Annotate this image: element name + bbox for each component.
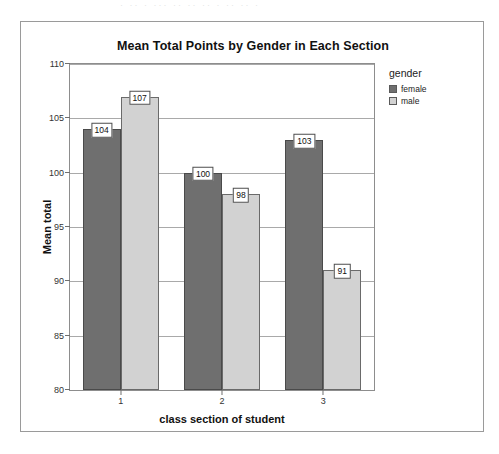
bar-male-section-1[interactable]: 107	[121, 97, 159, 390]
y-tick-mark	[65, 280, 70, 281]
legend-item-female[interactable]: female	[389, 84, 479, 94]
y-tick-label: 90	[54, 276, 64, 286]
y-tick-mark	[65, 335, 70, 336]
x-tick-label: 1	[118, 396, 123, 406]
legend-swatch-female	[389, 85, 397, 93]
x-axis-title: class section of student	[69, 413, 375, 425]
legend: gender femalemale	[389, 67, 479, 108]
y-tick-label: 105	[49, 113, 64, 123]
x-tick: 3	[321, 390, 326, 406]
legend-entries: femalemale	[389, 84, 479, 106]
scan-artifact: · ·· · ··· ·· ·· ·· · ·· ·· ·	[120, 0, 420, 14]
y-tick-label: 95	[54, 222, 64, 232]
gridline	[70, 64, 374, 65]
y-tick-label: 80	[54, 385, 64, 395]
bar-value-label: 104	[91, 123, 112, 138]
bar-male-section-3[interactable]: 91	[323, 270, 361, 390]
bar-value-label: 91	[334, 264, 350, 279]
y-tick-label: 110	[50, 59, 64, 69]
y-tick-mark	[65, 172, 70, 173]
bar-value-label: 100	[192, 166, 213, 181]
gridline	[70, 118, 374, 119]
chart-outer-frame: Mean Total Points by Gender in Each Sect…	[20, 21, 484, 432]
bar-female-section-1[interactable]: 104	[83, 129, 121, 390]
bar-value-label: 107	[129, 90, 150, 105]
legend-label: male	[401, 96, 419, 106]
bar-male-section-2[interactable]: 98	[222, 194, 260, 390]
y-tick-mark	[65, 389, 70, 390]
y-tick-label: 85	[54, 331, 64, 341]
bar-value-label: 103	[294, 134, 315, 149]
bar-female-section-3[interactable]: 103	[285, 140, 323, 390]
legend-label: female	[401, 84, 427, 94]
y-tick-mark	[65, 63, 70, 64]
y-tick-mark	[65, 117, 70, 118]
plot-area: 808590951001051101041071100982103913	[69, 63, 375, 391]
legend-title: gender	[389, 67, 479, 79]
x-tick-label: 3	[321, 396, 326, 406]
legend-item-male[interactable]: male	[389, 96, 479, 106]
x-tick: 1	[118, 390, 123, 406]
bar-value-label: 98	[233, 188, 249, 203]
y-tick-label: 100	[49, 168, 64, 178]
x-tick-label: 2	[219, 396, 224, 406]
y-tick-mark	[65, 226, 70, 227]
y-axis-title-label: Mean total	[41, 200, 53, 254]
legend-swatch-male	[389, 97, 397, 105]
chart-title: Mean Total Points by Gender in Each Sect…	[21, 39, 485, 53]
y-axis-title: Mean total	[39, 63, 55, 391]
x-tick: 2	[219, 390, 224, 406]
bar-female-section-2[interactable]: 100	[184, 173, 222, 390]
